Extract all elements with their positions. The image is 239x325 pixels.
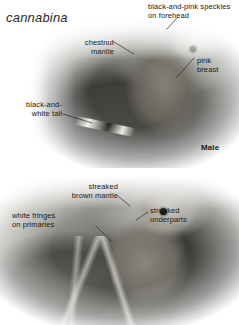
label-chestnut-mantle: chestnut mantle	[60, 38, 114, 56]
bird-plate-page: cannabina black-and-pink speckles on for…	[0, 0, 239, 325]
label-forehead: black-and-pink speckles on forehead	[148, 2, 239, 20]
label-white-fringes-on-primaries: white fringes on primaries	[12, 211, 94, 229]
male-bird-eye	[190, 46, 196, 52]
species-name: cannabina	[6, 10, 68, 25]
male-caption: Male	[201, 143, 239, 152]
female-linnet-photo	[0, 176, 239, 325]
label-streaked-underparts: streaked underparts	[150, 206, 212, 224]
label-streaked-brown-mantle: streaked brown mantle	[40, 182, 118, 200]
label-pink-breast: pink breast	[197, 56, 239, 74]
grass-stems	[0, 236, 239, 325]
label-black-and-white-tail: black-and- white tail	[2, 100, 62, 118]
